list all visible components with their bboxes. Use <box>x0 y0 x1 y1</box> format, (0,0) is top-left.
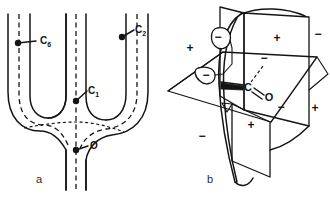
sign-mid-right-minus: − <box>277 100 284 114</box>
panel-b-svg: − − C O − + + − − + <box>165 0 330 197</box>
lobe-upper-minus-sign: − <box>214 30 221 44</box>
center-prong-right-wall <box>86 14 106 120</box>
oxygen-atom-label: O <box>265 91 274 103</box>
sign-far-right-minus: − <box>314 27 321 41</box>
right-panel-bottom-sweep <box>270 126 309 150</box>
panel-a-tuning-fork-channel-diagram: C6 C2 C1 O a <box>0 0 165 197</box>
sign-center-plus: + <box>247 118 254 132</box>
right-prong-inner-wall <box>106 14 126 120</box>
o-point[interactable] <box>73 147 79 153</box>
sign-lower-left-minus: − <box>198 129 205 143</box>
c1-point[interactable] <box>73 98 79 104</box>
c2-point[interactable] <box>119 34 125 40</box>
carbon-atom-label: C <box>244 81 252 93</box>
lobe-lower-minus-sign: − <box>202 68 209 82</box>
c6-point[interactable] <box>15 40 21 46</box>
sign-far-right-plus: + <box>311 101 318 115</box>
o-label: O <box>90 140 98 151</box>
panel-b-letter: b <box>207 173 213 185</box>
right-prong-outer-wall <box>86 14 148 190</box>
panel-b-octant-rule-diagram: − − C O − + + − − + <box>165 0 330 197</box>
dashed-bond-minus-sign: − <box>260 51 267 65</box>
left-prong-centerline <box>19 14 68 145</box>
right-prong-centerline <box>79 14 137 152</box>
sign-right-upper-plus: + <box>273 31 280 45</box>
left-prong-inner-wall <box>30 14 66 118</box>
panel-a-svg: C6 C2 C1 O a <box>0 0 165 197</box>
c6-label: C6 <box>40 35 51 48</box>
figure-root: C6 C2 C1 O a <box>0 0 330 197</box>
panel-a-letter: a <box>36 173 43 185</box>
right-plane-vertex-edge <box>309 57 328 90</box>
sign-left-plus: + <box>186 41 193 55</box>
dashed-bond-to-minus <box>251 66 263 82</box>
center-prong-left-wall <box>48 14 66 118</box>
c1-label: C1 <box>88 85 99 98</box>
